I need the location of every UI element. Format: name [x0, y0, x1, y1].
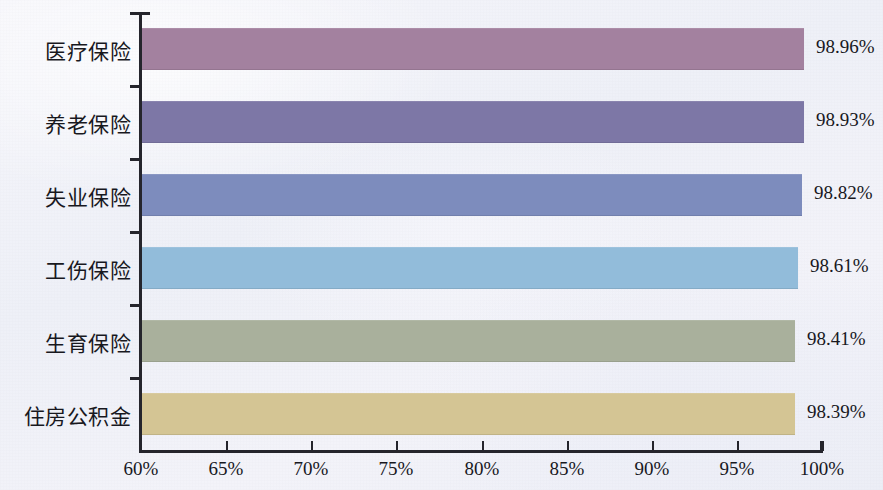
x-axis-tick: [396, 441, 398, 451]
category-label: 养老保险: [0, 108, 131, 138]
y-axis-tick: [130, 12, 141, 15]
x-axis-tick-label: 60%: [124, 458, 159, 480]
y-axis-tick: [130, 377, 141, 380]
horizontal-bar-chart: 医疗保险养老保险失业保险工伤保险生育保险住房公积金 98.96%98.93%98…: [0, 0, 883, 490]
category-label: 住房公积金: [0, 400, 131, 430]
category-label: 工伤保险: [0, 254, 131, 284]
bar: [141, 101, 804, 143]
x-axis-tick: [737, 441, 739, 451]
value-label: 98.96%: [816, 36, 875, 58]
x-axis-tick-label: 65%: [209, 458, 244, 480]
x-axis-tick: [652, 441, 654, 451]
bar: [141, 174, 802, 216]
x-axis-tick-label: 75%: [379, 458, 414, 480]
y-axis-tick: [130, 304, 141, 307]
y-axis-tick: [130, 231, 141, 234]
value-label: 98.93%: [816, 109, 875, 131]
x-axis-tick-label: 95%: [720, 458, 755, 480]
value-label: 98.61%: [810, 255, 869, 277]
x-axis-tick-label: 85%: [550, 458, 585, 480]
category-label: 生育保险: [0, 327, 131, 357]
bar: [141, 247, 798, 289]
category-label: 医疗保险: [0, 35, 131, 65]
x-axis-tick: [311, 441, 313, 451]
x-axis-tick: [482, 441, 484, 451]
category-label: 失业保险: [0, 181, 131, 211]
x-axis-line: [139, 450, 823, 453]
x-axis-tick-label: 90%: [635, 458, 670, 480]
x-axis-tick-label: 80%: [465, 458, 500, 480]
x-axis-tick: [226, 441, 228, 451]
bar: [141, 393, 795, 435]
y-axis-tick: [130, 85, 141, 88]
x-axis-tick: [822, 441, 824, 451]
y-axis-tick: [130, 158, 141, 161]
x-axis-tick: [567, 441, 569, 451]
x-axis-tick-label: 70%: [294, 458, 329, 480]
x-axis-tick-label: 100%: [800, 458, 844, 480]
value-label: 98.41%: [807, 328, 866, 350]
bar: [141, 320, 795, 362]
value-label: 98.82%: [814, 182, 873, 204]
value-label: 98.39%: [807, 401, 866, 423]
bar: [141, 28, 804, 70]
